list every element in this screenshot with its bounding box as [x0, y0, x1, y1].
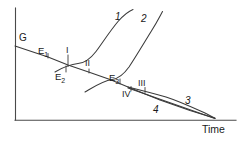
label-curve-3: 3: [185, 96, 191, 106]
axes-group: [15, 8, 236, 120]
curve-1-path: [55, 10, 133, 73]
figure-canvas: G E1 E2 E3 I II III IV 1 2 3 4 Time: [0, 0, 239, 143]
label-E2: E2: [55, 72, 65, 84]
x-axis-label: Time: [202, 124, 225, 135]
label-region-I: I: [66, 46, 69, 55]
label-curve-4: 4: [153, 105, 159, 115]
curve-2-path: [85, 12, 163, 93]
label-region-II: II: [85, 59, 90, 68]
label-G: G: [19, 33, 27, 43]
label-E2-sub: 2: [61, 77, 65, 84]
curve-4-path: [128, 88, 215, 118]
label-E1-sub: 1: [44, 51, 48, 58]
label-E3: E3: [109, 73, 119, 85]
label-E3-sub: 3: [115, 78, 119, 85]
label-E1: E1: [38, 46, 48, 58]
label-region-IV: IV: [122, 90, 131, 99]
label-region-III: III: [138, 79, 146, 88]
label-curve-2: 2: [141, 14, 147, 24]
label-curve-1: 1: [115, 12, 121, 22]
